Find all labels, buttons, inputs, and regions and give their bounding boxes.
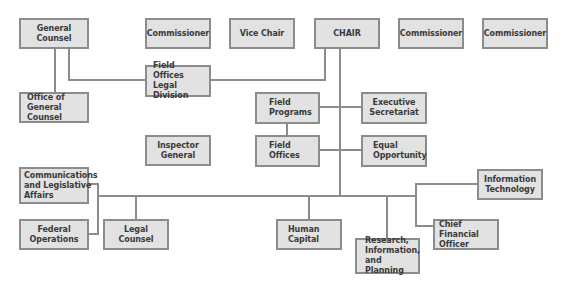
label-office-of-general-counsel: Office of General Counsel bbox=[27, 93, 81, 123]
connector-chair-left bbox=[324, 48, 326, 81]
label-field-programs: Field Programs bbox=[269, 98, 312, 118]
label-commissioner-1: Commissioner bbox=[147, 29, 209, 39]
box-field-programs: Field Programs bbox=[255, 92, 320, 124]
box-inspector-general: Inspector General bbox=[145, 135, 211, 166]
box-commissioner-1: Commissioner bbox=[145, 18, 211, 49]
connector-programs-secretariat bbox=[318, 106, 362, 108]
label-field-offices: Field Offices bbox=[269, 141, 300, 161]
box-information-technology: Information Technology bbox=[477, 169, 543, 200]
connector-gc-fold bbox=[68, 79, 146, 81]
box-general-counsel: General Counsel bbox=[19, 18, 89, 49]
connector-chair-main bbox=[339, 48, 341, 197]
connector-gc-ogc bbox=[54, 48, 56, 93]
box-legal-counsel: Legal Counsel bbox=[103, 219, 169, 250]
label-human-capital: Human Capital bbox=[288, 225, 319, 245]
connector-research bbox=[386, 195, 388, 239]
connector-fold-chair bbox=[209, 79, 326, 81]
connector-it-cfo bbox=[415, 183, 417, 227]
box-federal-operations: Federal Operations bbox=[19, 219, 89, 250]
box-field-offices: Field Offices bbox=[255, 135, 320, 167]
label-information-technology: Information Technology bbox=[484, 175, 536, 195]
connector-main-bus bbox=[97, 195, 417, 197]
box-office-of-general-counsel: Office of General Counsel bbox=[19, 92, 89, 123]
box-chief-financial-officer: Chief Financial Officer bbox=[433, 219, 499, 250]
label-research-information-planning: Research, Information, and Planning bbox=[365, 236, 420, 276]
label-chair: CHAIR bbox=[333, 29, 360, 39]
label-executive-secretariat: Executive Secretariat bbox=[369, 98, 418, 118]
label-commissioner-3: Commissioner bbox=[484, 29, 546, 39]
box-vice-chair: Vice Chair bbox=[229, 18, 295, 49]
label-commissioner-2: Commissioner bbox=[400, 29, 462, 39]
connector-gc-down bbox=[68, 48, 70, 81]
box-field-offices-legal-division: Field Offices Legal Division bbox=[145, 65, 211, 97]
box-commissioner-3: Commissioner bbox=[482, 18, 548, 49]
label-vice-chair: Vice Chair bbox=[240, 29, 284, 39]
label-federal-operations: Federal Operations bbox=[30, 225, 79, 245]
box-communications-legislative-affairs: Communications and Legislative Affairs bbox=[19, 167, 89, 204]
label-legal-counsel: Legal Counsel bbox=[111, 225, 161, 245]
label-field-offices-legal-division: Field Offices Legal Division bbox=[153, 61, 203, 101]
box-chair: CHAIR bbox=[314, 18, 380, 49]
label-inspector-general: Inspector General bbox=[157, 141, 199, 161]
connector-legal-counsel bbox=[135, 195, 137, 220]
label-general-counsel: General Counsel bbox=[27, 24, 81, 44]
org-chart: General Counsel Commissioner Vice Chair … bbox=[0, 0, 564, 286]
box-commissioner-2: Commissioner bbox=[398, 18, 464, 49]
connector-human-capital bbox=[308, 195, 310, 220]
connector-offices-eeo bbox=[318, 149, 362, 151]
label-chief-financial-officer: Chief Financial Officer bbox=[439, 220, 491, 250]
label-equal-opportunity: Equal Opportunity bbox=[373, 141, 427, 161]
box-human-capital: Human Capital bbox=[276, 219, 342, 250]
label-communications-legislative-affairs: Communications and Legislative Affairs bbox=[24, 171, 97, 201]
connector-it bbox=[415, 183, 478, 185]
box-research-information-planning: Research, Information, and Planning bbox=[355, 238, 420, 274]
box-equal-opportunity: Equal Opportunity bbox=[361, 135, 427, 167]
connector-cfo bbox=[415, 225, 434, 227]
box-executive-secretariat: Executive Secretariat bbox=[361, 92, 427, 124]
